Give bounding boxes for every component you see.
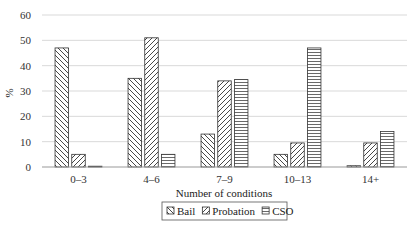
bar-bail-3: [274, 154, 288, 167]
x-tick-label: 7–9: [216, 173, 233, 185]
y-axis-ticks: 0102030405060: [20, 9, 32, 173]
legend-label-cso: CSO: [272, 205, 293, 217]
legend: BailProbationCSO: [162, 202, 294, 220]
bar-cso-3: [307, 48, 321, 167]
y-tick-label: 60: [20, 9, 32, 21]
x-tick-label: 0–3: [70, 173, 87, 185]
legend-swatch-bail: [167, 207, 174, 214]
bars: [55, 38, 394, 167]
legend-label-probation: Probation: [212, 205, 255, 217]
bar-bail-1: [128, 78, 142, 167]
bar-probation-2: [218, 81, 232, 167]
bar-chart: 0102030405060 0–34–67–910–1314+ % Number…: [0, 0, 416, 228]
bar-probation-3: [291, 143, 305, 167]
y-axis-label: %: [3, 88, 15, 97]
x-axis-ticks: 0–34–67–910–1314+: [70, 173, 379, 185]
y-tick-label: 0: [26, 161, 32, 173]
bar-probation-0: [72, 154, 86, 167]
legend-swatch-probation: [202, 207, 209, 214]
bar-cso-4: [380, 132, 394, 167]
y-tick-label: 30: [20, 85, 32, 97]
bar-probation-4: [364, 143, 378, 167]
x-tick-label: 4–6: [143, 173, 160, 185]
y-tick-label: 20: [20, 110, 32, 122]
y-tick-label: 40: [20, 60, 32, 72]
legend-label-bail: Bail: [177, 205, 195, 217]
bar-bail-2: [201, 134, 215, 167]
y-tick-label: 10: [20, 136, 32, 148]
bar-cso-2: [234, 80, 248, 167]
bar-cso-1: [161, 154, 175, 167]
y-tick-label: 50: [20, 34, 32, 46]
bar-probation-1: [145, 38, 159, 167]
x-axis-label: Number of conditions: [176, 187, 273, 199]
x-tick-label: 14+: [362, 173, 379, 185]
x-tick-label: 10–13: [284, 173, 312, 185]
bar-bail-0: [55, 48, 69, 167]
legend-swatch-cso: [262, 207, 269, 214]
